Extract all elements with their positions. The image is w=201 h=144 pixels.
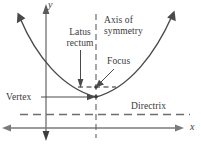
latus-rectum-label-line2: rectum bbox=[56, 38, 104, 49]
latus-rectum-label: Latus rectum bbox=[56, 27, 104, 48]
y-axis bbox=[43, 4, 50, 141]
axis-of-symmetry-label: Axis of symmetry bbox=[104, 15, 143, 36]
focus-leader-arrow bbox=[96, 69, 115, 88]
vertex-label: Vertex bbox=[6, 92, 31, 102]
focus-label: Focus bbox=[107, 56, 130, 66]
x-axis-label: x bbox=[190, 122, 195, 132]
latus-rectum-label-line1: Latus bbox=[56, 27, 104, 38]
x-axis bbox=[2, 125, 184, 132]
parabola-diagram: y x Latus rectum Axis of symmetry Focus … bbox=[0, 0, 201, 144]
y-axis-label: y bbox=[48, 0, 53, 10]
diagram-canvas bbox=[0, 0, 201, 144]
directrix-label: Directrix bbox=[131, 101, 166, 111]
latus-rectum-leader-arrow bbox=[78, 50, 84, 88]
axis-of-symmetry-label-line2: symmetry bbox=[104, 26, 143, 37]
vertex-leader-arrow bbox=[41, 94, 96, 100]
axis-of-symmetry-label-line1: Axis of bbox=[104, 15, 143, 26]
